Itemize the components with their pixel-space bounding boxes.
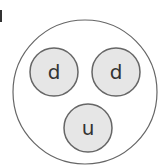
quark-u-bottom: u <box>64 104 112 152</box>
partial-label-mark <box>0 10 2 22</box>
quark-d-left: d <box>30 48 78 96</box>
quark-label: d <box>48 60 61 84</box>
neutron-diagram: d d u <box>0 0 160 167</box>
quark-d-right: d <box>92 48 140 96</box>
quark-label: d <box>110 60 123 84</box>
quark-label: u <box>82 116 95 140</box>
